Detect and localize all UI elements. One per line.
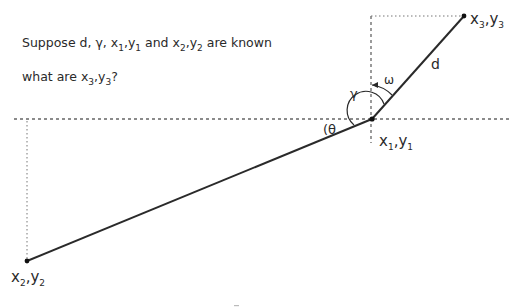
segment-p1-p3-d	[372, 16, 464, 119]
label-theta: θ	[328, 122, 336, 137]
label-gamma: γ	[350, 86, 358, 101]
point-x2-y2	[25, 259, 30, 264]
point-x3-y3	[462, 14, 467, 19]
label-x3-y3: x3,y3	[470, 10, 504, 30]
label-omega: ω	[384, 73, 394, 87]
problem-line-1: Suppose d, γ, x1,y1 and x2,y2 are known	[22, 35, 272, 53]
label-x2-y2: x2,y2	[11, 268, 45, 288]
omega-arrowhead-icon	[372, 82, 378, 88]
problem-line-2: what are x3,y3?	[22, 69, 118, 87]
geometry-diagram: Suppose d, γ, x1,y1 and x2,y2 are known …	[0, 0, 522, 308]
label-d: d	[431, 56, 440, 72]
point-x1-y1	[369, 116, 374, 121]
stray-mark	[234, 305, 239, 306]
label-x1-y1: x1,y1	[379, 132, 413, 152]
segment-p2-p1	[27, 119, 372, 261]
